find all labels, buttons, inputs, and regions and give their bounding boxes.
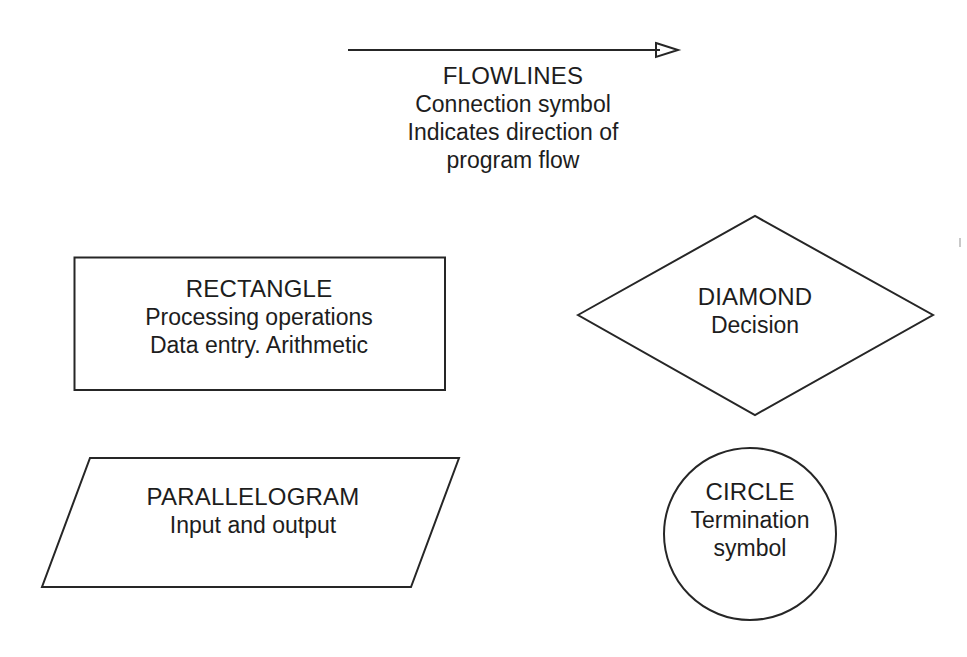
parallelogram-label-group: PARALLELOGRAM Input and output (58, 483, 448, 539)
diamond-title: DIAMOND (605, 283, 905, 311)
diamond-line-1: Decision (605, 311, 905, 339)
parallelogram-line-1: Input and output (58, 511, 448, 539)
flowlines-title: FLOWLINES (363, 62, 663, 90)
flowlines-line-1: Connection symbol (363, 90, 663, 118)
circle-title: CIRCLE (660, 478, 840, 506)
rectangle-label-group: RECTANGLE Processing operations Data ent… (74, 275, 444, 359)
flowlines-line-3: program flow (363, 146, 663, 174)
scan-artifact-mark (959, 238, 961, 247)
flowlines-line-2: Indicates direction of (363, 118, 663, 146)
rectangle-line-1: Processing operations (74, 303, 444, 331)
flowchart-symbols-diagram: FLOWLINES Connection symbol Indicates di… (0, 0, 967, 657)
parallelogram-title: PARALLELOGRAM (58, 483, 448, 511)
right-arrow-icon (346, 38, 686, 64)
circle-line-2: symbol (660, 534, 840, 562)
rectangle-line-2: Data entry. Arithmetic (74, 331, 444, 359)
circle-line-1: Termination (660, 506, 840, 534)
rectangle-title: RECTANGLE (74, 275, 444, 303)
flowlines-label-group: FLOWLINES Connection symbol Indicates di… (363, 62, 663, 174)
diamond-label-group: DIAMOND Decision (605, 283, 905, 339)
circle-label-group: CIRCLE Termination symbol (660, 478, 840, 562)
